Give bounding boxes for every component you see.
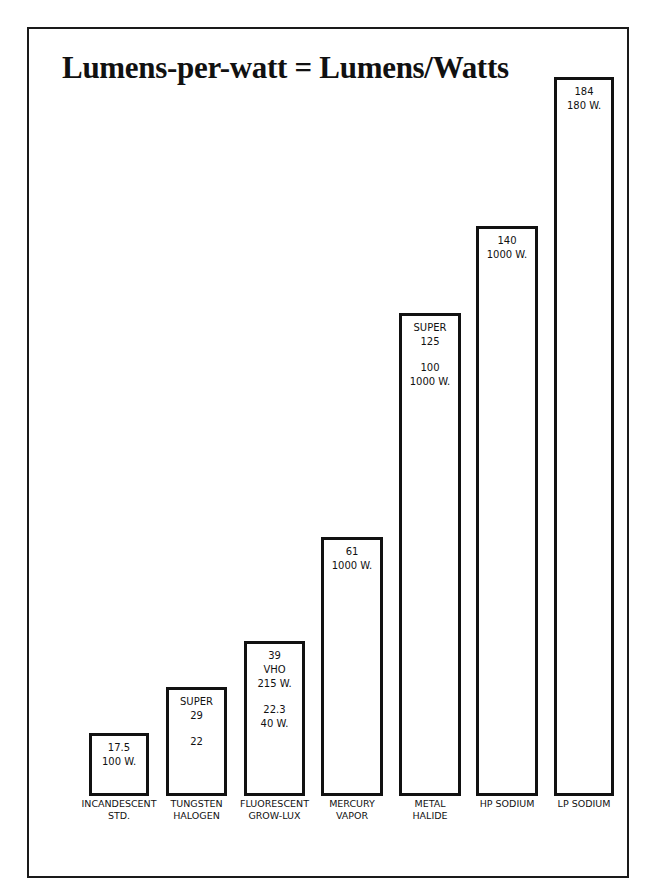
category-label: FLUORESCENTGROW-LUX	[240, 798, 309, 822]
bar-fluorescent-grow-lux: 39VHO215 W.22.340 W.	[244, 641, 305, 796]
bar-label-line	[402, 349, 458, 361]
bar-value-label: 17.5100 W.	[92, 741, 146, 769]
bar-value-label: 1401000 W.	[479, 234, 535, 262]
category-label-line: FLUORESCENT	[240, 798, 309, 810]
bar-label-line: 22	[169, 735, 224, 749]
category-label: TUNGSTENHALOGEN	[170, 798, 222, 822]
category-label: MERCURYVAPOR	[329, 798, 375, 822]
bar-label-line: 125	[402, 335, 458, 349]
category-label: HP SODIUM	[480, 798, 535, 810]
bar-value-label: SUPER2922	[169, 695, 224, 749]
bar-label-line	[247, 691, 302, 703]
category-label-line: HALIDE	[412, 810, 447, 822]
bar-hp-sodium: 1401000 W.	[476, 226, 538, 796]
bar-value-label: SUPER1251001000 W.	[402, 321, 458, 389]
category-label-line: LP SODIUM	[558, 798, 611, 810]
category-label-line: HALOGEN	[170, 810, 222, 822]
bar-label-line	[169, 723, 224, 735]
bar-label-line: VHO	[247, 663, 302, 677]
bar-label-line: 61	[324, 545, 380, 559]
bar-label-line: 140	[479, 234, 535, 248]
bar-label-line: SUPER	[402, 321, 458, 335]
chart-title: Lumens-per-watt = Lumens/Watts	[62, 50, 509, 86]
bar-lp-sodium: 184180 W.	[554, 77, 614, 796]
bar-tungsten-halogen: SUPER2922	[166, 687, 227, 796]
category-label-line: MERCURY	[329, 798, 375, 810]
bar-label-line: 17.5	[92, 741, 146, 755]
bar-label-line: 100 W.	[92, 755, 146, 769]
bar-label-line: 29	[169, 709, 224, 723]
category-label-line: METAL	[412, 798, 447, 810]
bar-label-line: 1000 W.	[479, 248, 535, 262]
category-label-line: GROW-LUX	[240, 810, 309, 822]
category-label: INCANDESCENTSTD.	[81, 798, 156, 822]
category-label-line: STD.	[81, 810, 156, 822]
bar-label-line: 184	[557, 85, 611, 99]
bar-label-line: 40 W.	[247, 717, 302, 731]
category-label-line: TUNGSTEN	[170, 798, 222, 810]
bar-label-line: 22.3	[247, 703, 302, 717]
category-label: METALHALIDE	[412, 798, 447, 822]
bar-value-label: 39VHO215 W.22.340 W.	[247, 649, 302, 731]
bar-metal-halide: SUPER1251001000 W.	[399, 313, 461, 796]
bar-label-line: 215 W.	[247, 677, 302, 691]
bar-label-line: 1000 W.	[402, 375, 458, 389]
bar-label-line: 1000 W.	[324, 559, 380, 573]
bar-value-label: 611000 W.	[324, 545, 380, 573]
category-label: LP SODIUM	[558, 798, 611, 810]
bar-label-line: 180 W.	[557, 99, 611, 113]
category-label-line: HP SODIUM	[480, 798, 535, 810]
category-label-line: INCANDESCENT	[81, 798, 156, 810]
bar-label-line: SUPER	[169, 695, 224, 709]
bar-incandescent-std-: 17.5100 W.	[89, 733, 149, 796]
bar-label-line: 100	[402, 361, 458, 375]
bar-value-label: 184180 W.	[557, 85, 611, 113]
bar-label-line: 39	[247, 649, 302, 663]
category-label-line: VAPOR	[329, 810, 375, 822]
bar-mercury-vapor: 611000 W.	[321, 537, 383, 796]
